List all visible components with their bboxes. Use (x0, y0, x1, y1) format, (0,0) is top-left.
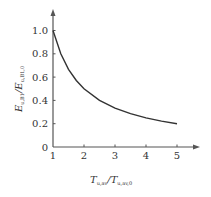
chart: 12345 00.20.40.60.81.0 Tu,av/Tu,av,0 Eu,… (0, 0, 211, 197)
x-tick-label: 5 (174, 150, 180, 161)
y-tick-label: 0.6 (32, 72, 48, 83)
x-tick-label: 1 (50, 150, 56, 161)
x-tick-label: 3 (112, 150, 118, 161)
y-ticks: 00.20.40.60.81.0 (32, 25, 55, 153)
y-tick-label: 0.2 (32, 118, 48, 129)
x-axis-arrow-icon (193, 145, 200, 150)
y-axis-arrow-icon (51, 9, 56, 16)
y-tick-label: 0.4 (32, 95, 48, 106)
y-tick-label: 0 (42, 142, 48, 153)
x-tick-label: 4 (143, 150, 149, 161)
x-axis-label: Tu,av/Tu,av,0 (90, 174, 132, 186)
x-tick-label: 2 (81, 150, 87, 161)
y-axis-label: Eu,B1/Eu,B1,0 (13, 66, 25, 113)
y-tick-label: 1.0 (32, 25, 48, 36)
y-tick-label: 0.8 (32, 48, 48, 59)
data-curve (53, 31, 177, 124)
axes (51, 9, 201, 150)
